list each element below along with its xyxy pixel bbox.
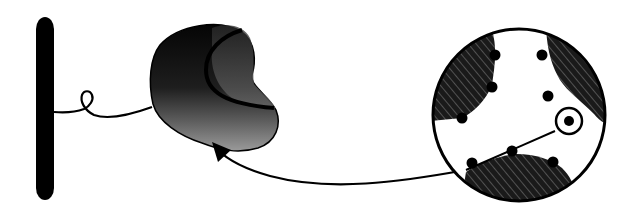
highlight-dot: [564, 116, 574, 126]
binding-dot: [457, 113, 468, 124]
diagram-svg: [0, 0, 641, 214]
binding-dot: [487, 82, 498, 93]
binding-dot: [548, 157, 559, 168]
tether-line: [54, 91, 152, 117]
diagram-canvas: [0, 0, 641, 214]
binding-dot: [537, 50, 548, 61]
magnified-view: [420, 20, 620, 210]
pointer-arrow: [218, 150, 466, 184]
kidney-domain: [150, 25, 278, 151]
binding-dot: [490, 50, 501, 61]
membrane-bar: [36, 17, 54, 200]
binding-dot: [543, 91, 554, 102]
